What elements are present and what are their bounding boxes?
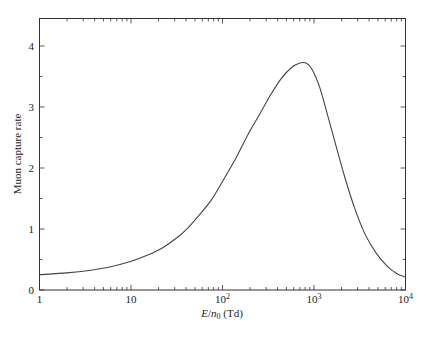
x-tick-label: 104 — [398, 292, 413, 305]
y-tick-label: 1 — [29, 223, 35, 235]
plot-frame — [40, 19, 406, 291]
x-axis-ticks — [40, 19, 402, 291]
y-axis-ticks — [40, 46, 406, 290]
x-axis-tick-labels: 110102103104 — [37, 292, 413, 305]
x-axis-label: E/n0 (Td) — [200, 307, 243, 321]
x-tick-label: 103 — [307, 292, 322, 305]
x-tick-label: 10 — [126, 293, 138, 305]
chart: 110102103104 01234 E/n0 (Td) Muon captur… — [0, 0, 428, 340]
y-axis-tick-labels: 01234 — [29, 40, 35, 296]
y-tick-label: 2 — [29, 162, 35, 174]
y-tick-label: 4 — [29, 40, 35, 52]
y-tick-label: 3 — [29, 101, 35, 113]
x-tick-label: 102 — [215, 292, 230, 305]
x-tick-label: 1 — [37, 293, 43, 305]
y-axis-label: Muon capture rate — [11, 114, 23, 195]
y-tick-label: 0 — [29, 284, 35, 296]
data-series-line — [40, 62, 406, 277]
